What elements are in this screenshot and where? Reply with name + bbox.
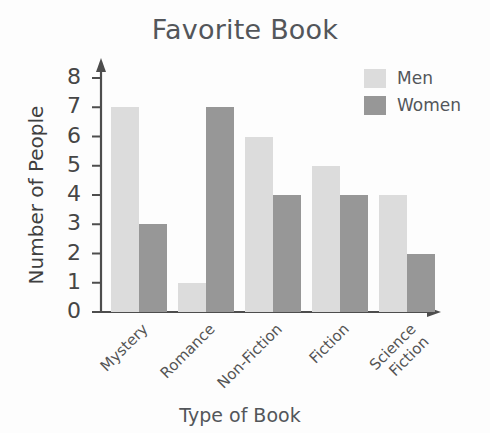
- bar-romance-men: [178, 283, 206, 312]
- y-tick-label: 6: [53, 125, 81, 147]
- bar-fiction-women: [340, 195, 368, 312]
- y-tick-label: 2: [53, 242, 81, 264]
- bar-romance-women: [206, 107, 234, 312]
- bar-science-fiction-men: [379, 195, 407, 312]
- bar-mystery-men: [111, 107, 139, 312]
- y-tick-label: 7: [53, 95, 81, 117]
- bar-science-fiction-women: [407, 254, 435, 313]
- bar-non-fiction-men: [245, 137, 273, 313]
- y-tick-label: 4: [53, 183, 81, 205]
- y-tick-marks: [92, 78, 101, 312]
- bars-layer: [101, 78, 431, 312]
- y-tick-label: 1: [53, 271, 81, 293]
- y-tick-label: 3: [53, 212, 81, 234]
- y-tick-label: 8: [53, 66, 81, 88]
- bar-non-fiction-women: [273, 195, 301, 312]
- y-tick-label: 5: [53, 154, 81, 176]
- bar-fiction-men: [312, 166, 340, 312]
- bar-mystery-women: [139, 224, 167, 312]
- y-tick-label: 0: [53, 300, 81, 322]
- y-axis-arrow-icon: [96, 58, 106, 72]
- bar-chart: Favorite Book Men Women Number of People…: [0, 0, 490, 433]
